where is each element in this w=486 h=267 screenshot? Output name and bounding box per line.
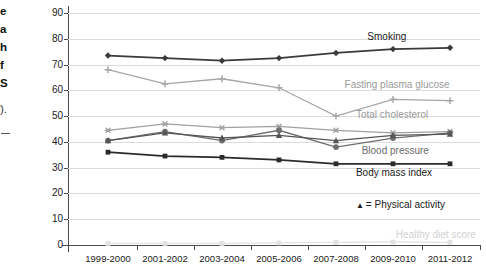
chart-figure: e a h f S ). Percent of population 01020… <box>0 0 486 267</box>
x-tick-label-5: 2009-2010 <box>370 253 415 264</box>
x-tick-mark <box>251 245 252 250</box>
x-tick-label-2: 2003-2004 <box>199 253 244 264</box>
x-tick-mark <box>68 245 69 250</box>
y-tick-label: 10 <box>52 214 63 224</box>
data-point <box>447 45 453 51</box>
gutter-fragment-1: e <box>0 6 16 18</box>
data-point <box>162 55 168 61</box>
data-point <box>220 241 225 246</box>
gutter-fragment-4: f <box>0 60 16 72</box>
x-tick-mark <box>365 245 366 250</box>
y-tick-label: 70 <box>52 60 63 70</box>
series-label-fasting-plasma-glucose: Fasting plasma glucose <box>345 79 450 90</box>
data-point <box>219 57 225 63</box>
y-tick-label: 0 <box>57 240 63 250</box>
x-tick-mark <box>137 245 138 250</box>
data-point <box>162 80 169 87</box>
y-tick-label: 20 <box>52 188 63 198</box>
gutter-fragment-6: ). <box>0 104 16 116</box>
data-point <box>333 113 340 120</box>
gutter-fragment-3: h <box>0 42 16 54</box>
y-tick-label: 40 <box>52 137 63 147</box>
data-point <box>163 154 168 159</box>
data-point <box>334 161 339 166</box>
data-point <box>276 55 282 61</box>
data-point <box>333 144 339 150</box>
data-point <box>219 125 226 130</box>
data-point <box>448 240 453 245</box>
x-tick-label-3: 2005-2006 <box>256 253 301 264</box>
x-axis-line <box>62 245 480 246</box>
data-point <box>163 241 168 246</box>
data-point <box>277 241 282 246</box>
data-point <box>105 128 112 133</box>
gutter-fragment-2: a <box>0 24 16 36</box>
data-point <box>162 121 169 126</box>
series-label-smoking: Smoking <box>367 31 406 42</box>
data-point <box>105 52 111 58</box>
data-point <box>334 240 339 245</box>
data-point <box>277 158 282 163</box>
data-point <box>390 96 397 103</box>
data-point <box>220 155 225 160</box>
data-point <box>391 240 396 245</box>
series-label-body-mass-index: Body mass index <box>356 167 432 178</box>
data-point <box>106 150 111 155</box>
data-point <box>106 241 111 246</box>
data-point <box>333 50 339 56</box>
x-tick-label-4: 2007-2008 <box>313 253 358 264</box>
y-tick-label: 50 <box>52 111 63 121</box>
triangle-icon: ▲ <box>356 201 364 210</box>
data-point <box>333 128 340 133</box>
y-tick-label: 30 <box>52 163 63 173</box>
data-point <box>391 161 396 166</box>
data-point <box>448 161 453 166</box>
data-point <box>219 75 226 82</box>
x-tick-mark <box>422 245 423 250</box>
y-tick-label: 80 <box>52 34 63 44</box>
series-smoking <box>105 45 453 64</box>
x-tick-mark <box>480 245 481 250</box>
data-point <box>390 46 396 52</box>
series-healthy-diet-score <box>106 240 453 246</box>
data-point <box>105 66 112 73</box>
series-label-blood-pressure: Blood pressure <box>362 145 429 156</box>
x-tick-label-1: 2001-2002 <box>142 253 187 264</box>
x-tick-mark <box>194 245 195 250</box>
y-tick-label: 90 <box>52 8 63 18</box>
x-tick-mark <box>308 245 309 250</box>
data-point <box>447 97 454 104</box>
gutter-dash <box>1 133 10 134</box>
data-point <box>276 84 283 91</box>
x-tick-label-6: 2011-2012 <box>428 253 473 264</box>
legend-physical-activity-label: = Physical activity <box>366 199 445 210</box>
legend-physical-activity: ▲= Physical activity <box>356 199 445 211</box>
plot-area: 0102030405060708090 1999-20002001-200220… <box>68 13 480 245</box>
gutter-fragment-5: S <box>0 78 16 90</box>
x-tick-label-0: 1999-2000 <box>85 253 130 264</box>
page-gutter-fragments: e a h f S ). <box>0 0 16 267</box>
series-label-total-cholesterol: Total cholesterol <box>356 109 428 120</box>
y-tick-label: 60 <box>52 85 63 95</box>
series-label-healthy-diet-score: Healthy diet score <box>396 229 476 240</box>
